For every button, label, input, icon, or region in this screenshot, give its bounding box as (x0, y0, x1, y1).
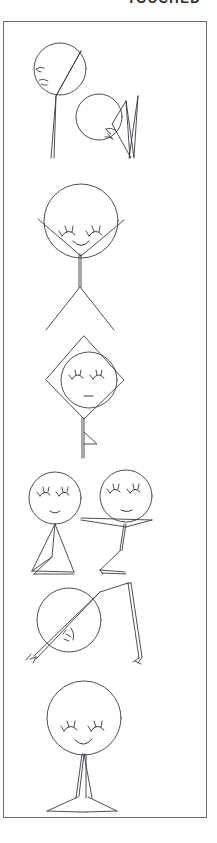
sketch-page: TOUCHED (0, 0, 217, 843)
page-title: TOUCHED (0, 0, 201, 5)
drawing-frame (3, 21, 207, 818)
